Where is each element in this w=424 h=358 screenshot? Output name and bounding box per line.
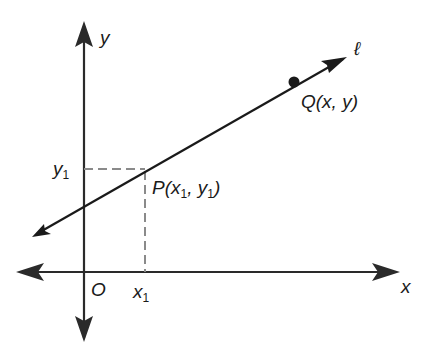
projection-lines xyxy=(84,169,145,272)
origin-label: O xyxy=(91,279,106,300)
x1-label: x1 xyxy=(132,281,150,305)
y1-label: y1 xyxy=(51,158,70,182)
line-l xyxy=(32,57,347,237)
line-lower-arrow-icon xyxy=(32,224,51,237)
point-p-label: P(x1, y1) xyxy=(152,177,220,201)
line-label: ℓ xyxy=(353,38,361,59)
y-axis-label: y xyxy=(98,27,111,48)
x-axis-label: x xyxy=(400,276,412,297)
point-q-label: Q(x, y) xyxy=(301,91,358,112)
point-q-marker xyxy=(289,77,300,88)
coordinate-diagram: y x O ℓ y1 x1 P(x1, y1) Q(x, y) xyxy=(0,0,424,358)
x-axis xyxy=(16,263,400,281)
